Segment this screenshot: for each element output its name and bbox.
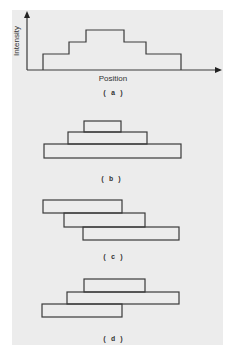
rect-2 bbox=[64, 213, 145, 227]
rect-top bbox=[84, 121, 121, 132]
x-axis-label: Position bbox=[99, 74, 127, 83]
rect-bottom bbox=[42, 304, 122, 317]
panel-a bbox=[24, 11, 222, 73]
rect-1 bbox=[43, 200, 122, 213]
caption-d: ( d ) bbox=[102, 335, 123, 343]
rect-top bbox=[84, 279, 145, 292]
panel-d bbox=[42, 279, 179, 317]
y-axis-arrow-icon bbox=[24, 11, 30, 18]
rect-middle bbox=[67, 292, 179, 304]
figure-diagram: Intensity Position ( a ) ( b ) ( c ) ( d… bbox=[0, 0, 232, 351]
rect-3 bbox=[83, 227, 179, 240]
rect-middle bbox=[68, 132, 147, 144]
panel-b bbox=[44, 121, 181, 158]
panel-c bbox=[43, 200, 179, 240]
y-axis-label: Intensity bbox=[12, 26, 21, 56]
intensity-profile bbox=[43, 30, 181, 70]
caption-b: ( b ) bbox=[100, 175, 121, 183]
x-axis-arrow-icon bbox=[215, 67, 222, 73]
caption-c: ( c ) bbox=[102, 253, 123, 261]
rect-bottom bbox=[44, 144, 181, 158]
caption-a: ( a ) bbox=[102, 89, 123, 97]
